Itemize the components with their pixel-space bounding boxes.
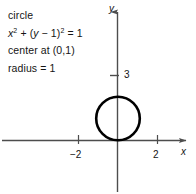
y-tick-label-3: 3 xyxy=(124,70,130,80)
x-tick-label-neg2: −2 xyxy=(70,150,81,160)
annotation-shape-name: circle xyxy=(8,10,118,21)
x-axis-label: x xyxy=(181,147,186,157)
annotation-equation: x2 + (y − 1)2 = 1 xyxy=(8,28,118,39)
x-tick-label-2: 2 xyxy=(153,150,159,160)
equation-plus-open: + ( xyxy=(17,27,33,39)
annotation-radius: radius = 1 xyxy=(8,63,118,74)
annotation-block: circle x2 + (y − 1)2 = 1 center at (0,1)… xyxy=(8,10,118,80)
math-figure-circle: circle x2 + (y − 1)2 = 1 center at (0,1)… xyxy=(0,0,196,194)
y-axis-label: y xyxy=(109,4,114,14)
annotation-center: center at (0,1) xyxy=(8,45,118,56)
equation-equals: = 1 xyxy=(64,27,82,39)
equation-minus-one: − 1) xyxy=(39,27,61,39)
